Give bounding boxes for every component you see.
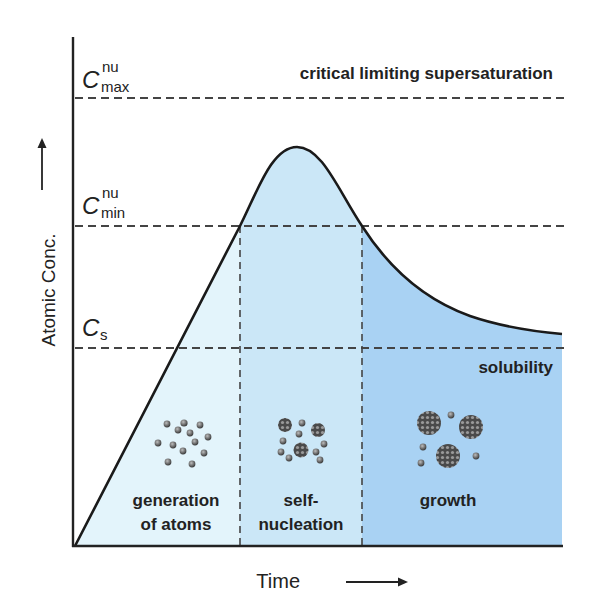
solubility-label: solubility: [478, 358, 553, 377]
lamer-diagram: Atomic Conc. Time C nu max critical limi…: [0, 0, 591, 607]
cs-label: C s: [82, 314, 108, 343]
stage-region-nucleation: [240, 147, 362, 546]
stage-label-nucleation-line2: nucleation: [258, 515, 343, 534]
svg-text:C: C: [82, 192, 100, 219]
x-axis-label: Time: [256, 570, 300, 592]
cmin-label: C nu min: [82, 184, 125, 221]
stage-label-nucleation-line1: self-: [284, 491, 319, 510]
x-axis-arrow-icon: [346, 578, 408, 587]
svg-text:min: min: [101, 204, 125, 221]
svg-text:C: C: [82, 314, 100, 341]
critical-supersaturation-label: critical limiting supersaturation: [300, 64, 553, 83]
y-axis-label: Atomic Conc.: [38, 234, 59, 347]
svg-text:C: C: [82, 66, 100, 93]
cmax-label: C nu max: [82, 58, 130, 95]
y-axis-arrow-icon: [38, 138, 47, 190]
svg-text:max: max: [101, 78, 130, 95]
stage-label-generation-line2: of atoms: [141, 515, 212, 534]
stage-label-generation-line1: generation: [133, 491, 220, 510]
stage-label-growth: growth: [420, 491, 477, 510]
y-axis-label-group: Atomic Conc.: [38, 234, 59, 347]
svg-text:nu: nu: [102, 58, 119, 75]
svg-text:s: s: [100, 326, 108, 343]
svg-text:nu: nu: [102, 184, 119, 201]
